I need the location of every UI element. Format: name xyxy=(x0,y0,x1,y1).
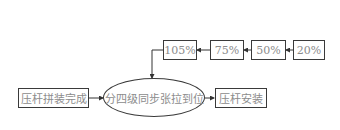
stage-20-label: 20% xyxy=(297,44,321,57)
arrow-105-to-center xyxy=(152,50,163,78)
stage-105-box: 105% xyxy=(163,40,197,60)
stage-75-label: 75% xyxy=(215,44,239,57)
start-box: 压杆拼装完成 xyxy=(18,88,89,108)
stage-50-box: 50% xyxy=(251,40,286,60)
stage-75-box: 75% xyxy=(210,40,244,60)
center-label: 分四级同步张拉到位 xyxy=(105,90,204,106)
end-box: 压杆安装 xyxy=(215,88,267,108)
stage-105-label: 105% xyxy=(164,44,195,57)
center-ellipse: 分四级同步张拉到位 xyxy=(103,78,205,117)
start-label: 压杆拼装完成 xyxy=(21,90,87,106)
stage-20-box: 20% xyxy=(293,40,325,60)
stage-50-label: 50% xyxy=(256,44,280,57)
end-label: 压杆安装 xyxy=(219,90,263,106)
